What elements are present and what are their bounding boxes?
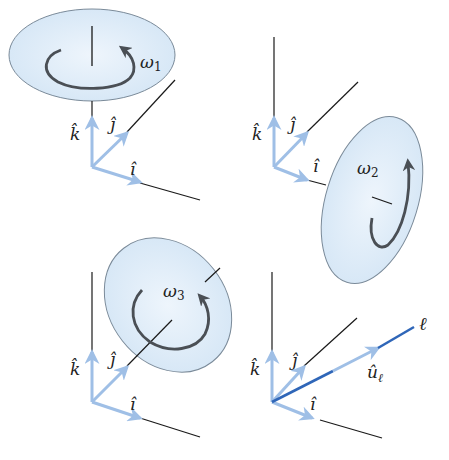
line-l-label: ℓ (419, 313, 427, 334)
j-label: ĵ (107, 349, 117, 369)
j-unit-vector-icon (92, 367, 127, 402)
panel-4: k̂ ĵ î ℓ ûℓ (250, 272, 427, 438)
rotation-diagram: ω1 k̂ ĵ î k̂ ĵ î ω2 ω3 (0, 0, 449, 460)
i-unit-vector-icon (272, 402, 312, 418)
j-axis-line (304, 318, 357, 366)
i-axis-line (320, 420, 382, 438)
i-label: î (313, 156, 320, 176)
i-axis-line (140, 183, 200, 200)
j-label: ĵ (287, 114, 297, 134)
j-unit-vector-icon (92, 133, 127, 167)
k-label: k̂ (250, 358, 260, 379)
line-l-segment (272, 371, 333, 402)
j-label: ĵ (107, 114, 117, 134)
j-axis-line (307, 82, 358, 132)
k-label: k̂ (70, 123, 80, 144)
rotating-disk (78, 213, 258, 398)
line-l-extension (378, 327, 414, 348)
i-label: î (130, 159, 137, 179)
k-label: k̂ (252, 123, 262, 144)
i-axis-line (307, 180, 326, 185)
j-unit-vector-icon (274, 133, 307, 167)
i-axis-line (140, 418, 200, 437)
i-label: î (310, 394, 317, 414)
i-unit-vector-icon (274, 167, 307, 180)
j-label: ĵ (289, 350, 299, 370)
u-l-label: ûℓ (367, 362, 383, 385)
rotating-disk (303, 104, 441, 295)
panel-1: ω1 k̂ ĵ î (9, 9, 200, 200)
k-label: k̂ (70, 358, 80, 379)
panel-3: ω3 k̂ ĵ î (70, 213, 258, 437)
panel-2: k̂ ĵ î ω2 (252, 37, 441, 296)
i-label: î (130, 394, 137, 414)
j-unit-vector-icon (272, 367, 304, 402)
